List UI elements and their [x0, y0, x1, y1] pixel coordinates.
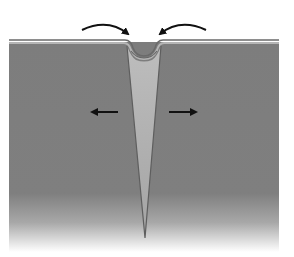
curved-arrow-right-icon [160, 25, 206, 34]
curved-arrow-left-icon [82, 25, 128, 34]
wedge-diagram [0, 0, 294, 257]
diagram-canvas [0, 0, 294, 257]
